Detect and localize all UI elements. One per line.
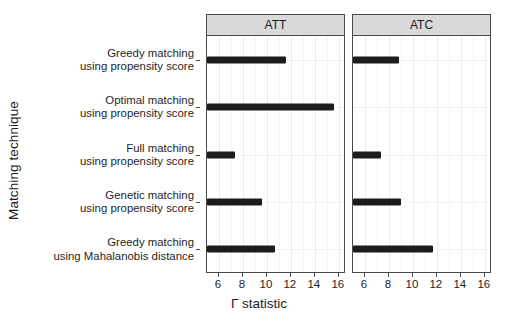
- x-axis-tick-label: 12: [429, 278, 442, 290]
- x-axis-tick-label: 10: [260, 278, 273, 290]
- x-axis-tick-label: 16: [331, 278, 344, 290]
- x-axis-tick: [266, 273, 267, 277]
- x-axis-tick-label: 16: [477, 278, 490, 290]
- bar: [353, 56, 399, 63]
- y-axis-tick: [196, 202, 200, 203]
- x-axis-tick-label: 8: [385, 278, 391, 290]
- y-axis-label-line: using propensity score: [22, 202, 194, 215]
- bar: [207, 246, 275, 253]
- y-axis-tick: [196, 60, 200, 61]
- bar: [353, 246, 433, 253]
- y-axis-label-line: using propensity score: [22, 155, 194, 168]
- y-axis-label-line: using propensity score: [22, 60, 194, 73]
- x-axis-tick: [290, 273, 291, 277]
- x-axis-tick-label: 12: [283, 278, 296, 290]
- x-axis-tick: [484, 273, 485, 277]
- x-axis-tick: [314, 273, 315, 277]
- y-axis-label-line: Genetic matching: [22, 189, 194, 202]
- x-axis-tick-label: 14: [307, 278, 320, 290]
- facet-strip-atc: ATC: [352, 14, 491, 36]
- y-axis-label: Greedy matchingusing propensity score: [22, 46, 194, 72]
- facet-strip-label: ATC: [410, 18, 433, 32]
- y-axis-label-line: Optimal matching: [22, 94, 194, 107]
- y-axis-label: Greedy matchingusing Mahalanobis distanc…: [22, 236, 194, 262]
- y-axis-label-line: Full matching: [22, 141, 194, 154]
- plot-area-att: [206, 36, 345, 273]
- bar: [207, 198, 262, 205]
- y-axis-label: Genetic matchingusing propensity score: [22, 189, 194, 215]
- y-axis-tick: [196, 249, 200, 250]
- x-axis-tick: [412, 273, 413, 277]
- plot-area-atc: [352, 36, 491, 273]
- x-axis-tick: [218, 273, 219, 277]
- bar: [207, 56, 286, 63]
- gridline-horizontal: [353, 107, 490, 108]
- y-axis-label: Optimal matchingusing propensity score: [22, 94, 194, 120]
- y-axis-tick: [196, 155, 200, 156]
- y-axis-label-line: using propensity score: [22, 107, 194, 120]
- x-axis-tick-label: 14: [453, 278, 466, 290]
- x-axis-tick: [388, 273, 389, 277]
- x-axis-tick: [436, 273, 437, 277]
- y-axis-label-line: using Mahalanobis distance: [22, 249, 194, 262]
- x-axis-tick: [242, 273, 243, 277]
- x-axis-tick-label: 8: [239, 278, 245, 290]
- bar: [353, 151, 381, 158]
- bar: [207, 151, 235, 158]
- x-axis-title: Γ statistic: [0, 296, 518, 311]
- facet-strip-label: ATT: [265, 18, 287, 32]
- x-axis-tick-label: 10: [406, 278, 419, 290]
- y-axis-category-labels: Greedy matchingusing propensity scoreOpt…: [28, 36, 200, 273]
- bar: [353, 198, 401, 205]
- x-axis-tick-label: 6: [215, 278, 221, 290]
- y-axis-label-line: Greedy matching: [22, 236, 194, 249]
- x-axis-tick: [364, 273, 365, 277]
- chart-root: Matching technique Greedy matchingusing …: [0, 0, 518, 321]
- y-axis-tick: [196, 107, 200, 108]
- y-axis-label: Full matchingusing propensity score: [22, 141, 194, 167]
- facet-strip-att: ATT: [206, 14, 345, 36]
- x-axis-tick: [460, 273, 461, 277]
- y-axis-label-line: Greedy matching: [22, 46, 194, 59]
- x-axis-tick: [338, 273, 339, 277]
- bar: [207, 104, 334, 111]
- x-axis-tick-label: 6: [361, 278, 367, 290]
